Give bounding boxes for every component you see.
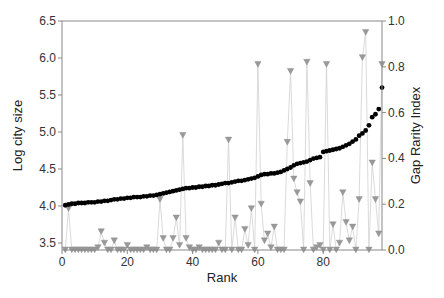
y2-tick-label: 0.4: [388, 151, 405, 165]
y-tick-label: 5.0: [39, 125, 56, 139]
city-size-point: [318, 155, 323, 160]
y-tick-label: 4.0: [39, 199, 56, 213]
gri-point: [245, 242, 251, 248]
data-marks: [62, 29, 385, 252]
gri-point: [323, 62, 329, 68]
gri-line: [65, 33, 382, 251]
gri-connecting-lines: [65, 33, 382, 251]
gri-point: [284, 139, 290, 145]
gri-point: [271, 224, 277, 230]
gri-point: [359, 55, 365, 61]
gri-point: [225, 137, 231, 143]
gri-point: [255, 62, 261, 68]
gri-point: [111, 238, 117, 244]
gri-point: [101, 240, 107, 246]
gri-point: [242, 226, 248, 232]
gri-point: [372, 197, 378, 203]
gri-point: [265, 231, 271, 237]
city-size-point: [367, 123, 372, 128]
gri-point: [180, 133, 186, 139]
gri-point: [307, 181, 313, 187]
gri-point: [258, 201, 264, 207]
x-tick-label: 60: [251, 255, 265, 269]
gri-point: [216, 240, 222, 246]
gri-point: [261, 238, 267, 244]
x-tick-label: 0: [59, 255, 66, 269]
gri-point: [340, 190, 346, 196]
x-tick-label: 20: [121, 255, 135, 269]
gri-point: [369, 160, 375, 166]
chart: 0204060803.54.04.55.05.56.06.50.00.20.40…: [0, 0, 444, 298]
y-tick-label: 4.5: [39, 162, 56, 176]
y-tick-label: 5.5: [39, 88, 56, 102]
y-tick-label: 6.5: [39, 14, 56, 28]
x-axis-title: Rank: [207, 270, 238, 285]
gri-point: [170, 236, 176, 242]
x-tick-label: 80: [317, 255, 331, 269]
city-size-point: [363, 128, 368, 133]
ticks: 0204060803.54.04.55.05.56.06.50.00.20.40…: [39, 14, 405, 269]
gri-point: [183, 236, 189, 242]
y-tick-label: 3.5: [39, 236, 56, 250]
gri-point: [336, 240, 342, 246]
gri-point: [362, 29, 368, 35]
gri-point: [248, 206, 254, 212]
gri-point: [297, 199, 303, 205]
y2-tick-label: 0.0: [388, 243, 405, 257]
city-size-point: [376, 107, 381, 112]
gri-point: [349, 224, 355, 230]
city-size-point: [373, 112, 378, 117]
gri-point: [160, 236, 166, 242]
gri-point: [330, 222, 336, 228]
y2-tick-label: 0.8: [388, 60, 405, 74]
y2-tick-label: 0.2: [388, 197, 405, 211]
y-tick-label: 6.0: [39, 51, 56, 65]
y-axis-title: Log city size: [10, 100, 25, 172]
gri-point: [343, 220, 349, 226]
y2-axis-title: Gap Rarity Index: [408, 86, 423, 184]
x-tick-label: 40: [186, 255, 200, 269]
city-size-point: [353, 137, 358, 142]
gri-point: [287, 68, 293, 74]
gri-point: [304, 59, 310, 65]
gri-point: [346, 238, 352, 244]
gri-point: [176, 242, 182, 248]
gri-point: [232, 215, 238, 221]
gri-point: [173, 215, 179, 221]
gri-point: [98, 229, 104, 235]
gri-point: [294, 190, 300, 196]
y2-tick-label: 0.6: [388, 106, 405, 120]
gri-point: [157, 197, 163, 203]
gri-point: [356, 197, 362, 203]
gri-point: [376, 231, 382, 237]
axes: [62, 21, 382, 250]
y2-tick-label: 1.0: [388, 14, 405, 28]
gri-point: [291, 176, 297, 182]
